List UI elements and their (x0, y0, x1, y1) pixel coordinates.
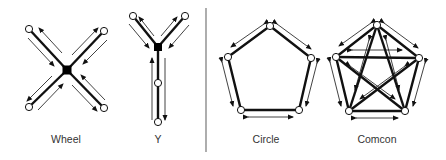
y-label: Y (118, 133, 198, 145)
node (154, 79, 161, 86)
wheel-network (25, 25, 107, 111)
node (307, 54, 314, 61)
hub-node (154, 43, 162, 51)
comcon-network (330, 21, 425, 118)
node (25, 103, 32, 110)
circle-label: Circle (226, 133, 306, 145)
node (295, 106, 302, 113)
comcon-label: Comcon (337, 133, 417, 145)
node (129, 12, 136, 19)
node (373, 21, 380, 28)
hub-node (63, 66, 72, 75)
node (154, 118, 161, 125)
node (181, 12, 188, 19)
node (332, 53, 339, 60)
wheel-label: Wheel (26, 133, 106, 145)
y-network (129, 12, 189, 125)
circle-network (222, 22, 317, 117)
node (237, 106, 244, 113)
node (345, 107, 352, 114)
node (224, 53, 231, 60)
node (401, 107, 408, 114)
node (25, 25, 32, 32)
node (266, 22, 273, 29)
node (100, 104, 107, 111)
node (415, 54, 422, 61)
node (100, 27, 107, 34)
